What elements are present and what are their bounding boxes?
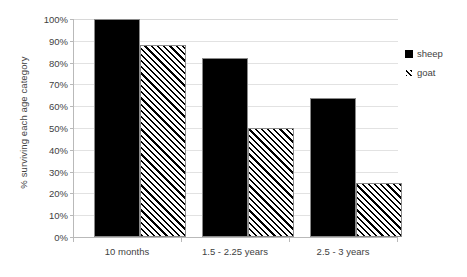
bar-sheep-1-5-2-25-years: [202, 58, 248, 237]
x-tick-mark-end: [397, 238, 398, 242]
y-tick-label-80: 80%: [8, 57, 68, 68]
y-tick-label-60: 60%: [8, 101, 68, 112]
y-tick-label-30: 30%: [8, 166, 68, 177]
x-tick-label-1-5-2-25-years: 1.5 - 2.25 years: [202, 246, 268, 257]
y-tick-mark-90: [70, 41, 74, 42]
y-tick-label-70: 70%: [8, 79, 68, 90]
y-tick-mark-20: [70, 193, 74, 194]
legend-swatch-sheep-icon: [405, 50, 413, 58]
x-tick-mark-2: [289, 238, 290, 242]
y-tick-mark-40: [70, 150, 74, 151]
y-tick-label-40: 40%: [8, 144, 68, 155]
bar-sheep-10-months: [94, 19, 140, 237]
y-tick-mark-70: [70, 84, 74, 85]
legend-label-sheep: sheep: [417, 48, 443, 59]
legend-item-goat: goat: [405, 64, 443, 81]
y-tick-mark-10: [70, 215, 74, 216]
y-tick-label-0: 0%: [8, 232, 68, 243]
x-tick-label-10-months: 10 months: [105, 246, 149, 257]
legend: sheep goat: [405, 45, 443, 83]
y-tick-mark-100: [70, 19, 74, 20]
y-tick-label-20: 20%: [8, 188, 68, 199]
bar-sheep-2-5-3-years: [310, 98, 356, 238]
y-tick-mark-60: [70, 106, 74, 107]
legend-label-goat: goat: [417, 67, 436, 78]
y-tick-mark-50: [70, 128, 74, 129]
bar-goat-2-5-3-years: [356, 183, 402, 238]
bar-goat-1-5-2-25-years: [248, 128, 294, 237]
bar-goat-10-months: [140, 45, 186, 237]
y-tick-mark-30: [70, 172, 74, 173]
bar-chart: % surviving each age category 100% 90% 8…: [0, 0, 467, 277]
y-tick-label-50: 50%: [8, 123, 68, 134]
y-tick-mark-80: [70, 63, 74, 64]
x-tick-label-2-5-3-years: 2.5 - 3 years: [317, 246, 370, 257]
y-tick-label-90: 90%: [8, 35, 68, 46]
x-tick-mark-start: [73, 238, 74, 242]
y-tick-label-100: 100%: [8, 14, 68, 25]
y-tick-label-10: 10%: [8, 210, 68, 221]
legend-swatch-goat-icon: [405, 69, 413, 77]
legend-item-sheep: sheep: [405, 45, 443, 62]
x-tick-mark-1: [181, 238, 182, 242]
plot-area: [73, 19, 398, 238]
